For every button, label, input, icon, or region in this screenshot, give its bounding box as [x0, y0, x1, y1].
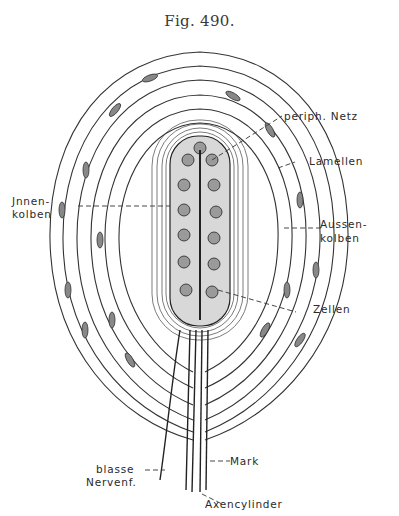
label-blasse-line1: blasse [96, 463, 134, 475]
label-aussenkolben-line1: Aussen- [320, 218, 367, 230]
label-axencylinder: Axencylinder [205, 498, 283, 510]
label-mark: Mark [230, 455, 259, 467]
label-lamellen: Lamellen [309, 155, 363, 167]
label-zellen: Zellen [313, 303, 350, 315]
label-periph-netz: periph. Netz [284, 110, 358, 122]
label-innenkolben-line1: Jnnen- [12, 195, 50, 207]
corpuscle-illustration [0, 0, 399, 516]
label-innenkolben-line2: kolben [12, 208, 52, 220]
label-aussenkolben-line2: kolben [320, 232, 360, 244]
label-blasse-line2: Nervenf. [86, 476, 137, 488]
